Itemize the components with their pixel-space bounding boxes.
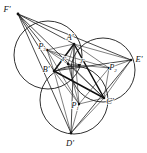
inner-triangle	[54, 44, 104, 98]
label-B-prime: B'	[42, 64, 49, 74]
circle-right	[71, 38, 135, 102]
geometry-canvas: F' A' E' C' D' B' I' J' P1 P2 P3	[0, 0, 147, 153]
segment-P1-to-C	[79, 98, 104, 104]
label-P3: P3	[37, 41, 46, 52]
dot-D-prime	[70, 132, 73, 135]
label-D-prime: D'	[65, 138, 74, 148]
cevian-D-to-B	[54, 71, 71, 133]
dot-C-prime	[103, 97, 106, 100]
dot-B-prime	[53, 70, 56, 73]
label-J-prime: J'	[80, 57, 85, 65]
label-E-prime: E'	[134, 54, 142, 64]
cevian-F-to-B	[18, 14, 54, 71]
cevian-lines	[18, 14, 131, 133]
label-C-prime: C'	[106, 96, 114, 106]
segment-P2-to-C	[104, 68, 109, 98]
dot-A-prime	[73, 43, 76, 46]
vertex-dots	[17, 13, 133, 135]
outer-triangle	[18, 14, 131, 133]
dot-P1	[78, 103, 80, 105]
label-F-prime: F'	[2, 4, 10, 14]
label-P2: P2	[108, 62, 117, 73]
cevian-E-to-C	[104, 60, 131, 98]
dot-F-prime	[17, 13, 20, 16]
label-A-prime: A'	[65, 32, 73, 42]
dot-P3	[46, 49, 48, 51]
dot-E-prime	[130, 59, 133, 62]
geometry-figure: F' A' E' C' D' B' I' J' P1 P2 P3	[0, 0, 147, 153]
label-I-prime: I'	[61, 55, 66, 63]
dot-I-prime	[67, 63, 69, 65]
